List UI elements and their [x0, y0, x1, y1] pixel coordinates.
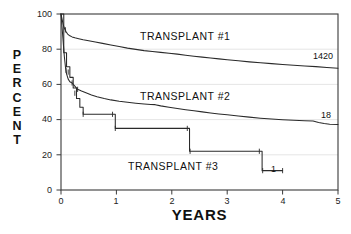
endpoint-label-transplant-1: 1420 — [313, 51, 333, 61]
y-title-letter: E — [6, 62, 28, 76]
y-title-letter: C — [6, 91, 28, 105]
y-tick-label-60: 60 — [30, 79, 52, 89]
x-tick-label-4: 4 — [274, 196, 292, 206]
x-axis-ticks — [61, 190, 338, 195]
x-tick-label-3: 3 — [218, 196, 236, 206]
x-tick-label-0: 0 — [52, 196, 70, 206]
y-axis-title: P E R C E N T — [6, 48, 28, 147]
x-axis-title: YEARS — [61, 206, 338, 223]
y-tick-label-80: 80 — [30, 44, 52, 54]
y-tick-label-20: 20 — [30, 150, 52, 160]
series-label-transplant-2: TRANSPLANT #2 — [140, 90, 230, 102]
x-tick-label-1: 1 — [107, 196, 125, 206]
endpoint-label-transplant-2: 18 — [321, 110, 331, 120]
series-label-transplant-1: TRANSPLANT #1 — [140, 30, 230, 42]
y-title-letter: E — [6, 105, 28, 119]
y-axis-ticks — [57, 14, 62, 190]
y-title-letter: T — [6, 133, 28, 147]
endpoint-label-transplant-3: 1 — [271, 164, 276, 174]
x-tick-label-2: 2 — [163, 196, 181, 206]
x-tick-label-5: 5 — [329, 196, 347, 206]
y-title-letter: R — [6, 76, 28, 90]
y-tick-label-0: 0 — [30, 185, 52, 195]
y-title-letter: N — [6, 119, 28, 133]
series-label-transplant-3: TRANSPLANT #3 — [128, 160, 218, 172]
survival-chart: P E R C E N T YEARS 100 80 60 40 20 0 0 … — [0, 0, 351, 234]
y-tick-label-100: 100 — [30, 9, 52, 19]
y-title-letter: P — [6, 48, 28, 62]
y-tick-label-40: 40 — [30, 114, 52, 124]
